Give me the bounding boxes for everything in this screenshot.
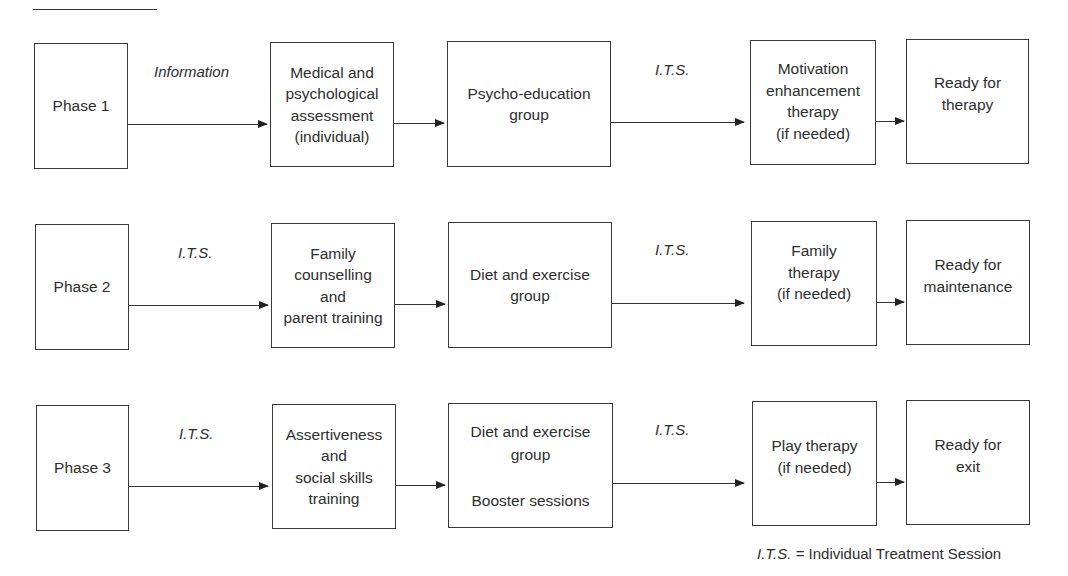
row-3-step-1-text: Assertiveness and social skills training [286, 424, 382, 510]
row-2-step-2-text: Diet and exercise group [470, 264, 590, 307]
row-3-label-2: I.T.S. [655, 421, 689, 438]
row-1-label-2: I.T.S. [655, 61, 689, 78]
row-3-outcome-box: Ready for exit [906, 400, 1030, 525]
phase-2-box: Phase 2 [35, 224, 129, 350]
row-2-step-3-box: Family therapy (if needed) [751, 221, 877, 346]
row-3-arrow-2 [396, 485, 445, 486]
row-3-arrow-1 [129, 486, 268, 487]
row-3-arrow-4 [877, 482, 904, 483]
row-3-outcome-text: Ready for exit [934, 434, 1001, 477]
phase-1-box: Phase 1 [34, 43, 128, 169]
row-1-outcome-box: Ready for therapy [906, 39, 1029, 164]
phase-1-label: Phase 1 [53, 95, 110, 117]
row-3-step-2-text: Diet and exercise group Booster sessions [471, 420, 591, 512]
row-2-arrow-1 [129, 305, 268, 306]
row-1-arrow-1 [128, 124, 267, 125]
row-2-step-3-text: Family therapy (if needed) [777, 240, 851, 305]
row-2-arrow-2 [395, 304, 445, 305]
legend-meaning: Individual Treatment Session [809, 545, 1002, 562]
row-2-step-1-text: Family counselling and parent training [283, 243, 382, 329]
legend: I.T.S. = Individual Treatment Session [757, 545, 1001, 562]
row-2-arrow-4 [877, 302, 904, 303]
legend-equals: = [796, 545, 805, 562]
row-3-step-3-box: Play therapy (if needed) [752, 401, 877, 526]
row-1-step-3-box: Motivation enhancement therapy (if neede… [750, 40, 876, 165]
row-2-arrow-3 [612, 303, 744, 304]
row-3-step-1-box: Assertiveness and social skills training [272, 404, 396, 529]
row-1-step-1-box: Medical and psychological assessment (in… [270, 42, 394, 167]
row-1-step-3-text: Motivation enhancement therapy (if neede… [766, 58, 860, 144]
row-1-step-2-text: Psycho-education group [467, 83, 590, 126]
row-1-label-1: Information [154, 63, 229, 80]
row-2-step-2-box: Diet and exercise group [448, 222, 612, 348]
row-1-arrow-3 [611, 122, 744, 123]
row-1-step-2-box: Psycho-education group [447, 41, 611, 167]
legend-abbr: I.T.S. [757, 545, 791, 562]
row-2-outcome-box: Ready for maintenance [906, 220, 1030, 345]
row-1-step-1-text: Medical and psychological assessment (in… [285, 62, 378, 148]
row-1-arrow-4 [876, 121, 904, 122]
row-3-label-1: I.T.S. [179, 425, 213, 442]
row-1-outcome-text: Ready for therapy [934, 72, 1001, 115]
row-3-arrow-3 [613, 483, 744, 484]
phase-2-label: Phase 2 [54, 276, 111, 298]
row-2-label-2: I.T.S. [655, 241, 689, 258]
row-3-step-2-box: Diet and exercise group Booster sessions [448, 403, 613, 528]
top-rule [33, 9, 157, 10]
row-2-step-1-box: Family counselling and parent training [271, 223, 395, 348]
row-2-label-1: I.T.S. [178, 244, 212, 261]
phase-3-label: Phase 3 [54, 457, 111, 479]
row-3-step-3-text: Play therapy (if needed) [771, 435, 857, 478]
phase-3-box: Phase 3 [36, 405, 129, 531]
row-2-outcome-text: Ready for maintenance [924, 254, 1013, 297]
row-1-arrow-2 [394, 123, 444, 124]
